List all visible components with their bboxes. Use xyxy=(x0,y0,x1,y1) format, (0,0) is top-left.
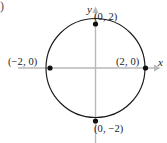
point-marker-right xyxy=(143,65,148,70)
point-label-bottom: (0, −2) xyxy=(94,124,123,135)
point-label-left: (−2, 0) xyxy=(8,57,37,68)
point-marker-left xyxy=(47,65,52,70)
y-axis-label: y xyxy=(87,4,92,15)
x-axis-label: x xyxy=(158,57,163,68)
circle-graph-figure: ) y x (0, 2) (2, 0) (0, −2) (−2, 0) xyxy=(0,0,167,143)
point-label-top: (0, 2) xyxy=(94,12,117,23)
graph-canvas xyxy=(0,0,167,143)
point-label-right: (2, 0) xyxy=(116,57,139,68)
